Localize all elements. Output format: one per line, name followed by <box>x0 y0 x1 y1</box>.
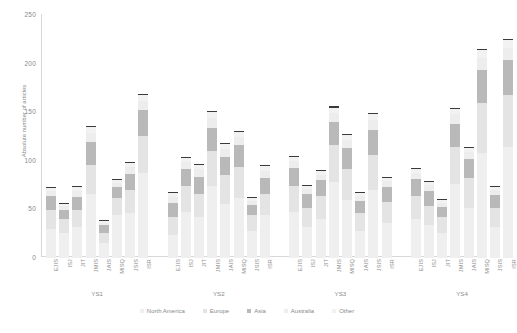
bar[interactable] <box>86 126 96 257</box>
bar-segment <box>207 151 217 186</box>
bar-segment <box>72 227 82 258</box>
bar-segment <box>437 207 447 218</box>
legend-label: Other <box>339 308 354 314</box>
bar-segment <box>181 162 191 169</box>
bar-segment <box>302 227 312 258</box>
bar-segment <box>490 227 500 258</box>
bar-segment <box>168 235 178 258</box>
x-tick-label: ISR <box>389 259 395 269</box>
bar[interactable] <box>450 108 460 257</box>
bar[interactable] <box>368 113 378 257</box>
bar[interactable] <box>112 179 122 257</box>
bar-segment <box>125 190 135 213</box>
x-tick-label: EJIS <box>297 259 303 271</box>
bar[interactable] <box>490 186 500 257</box>
bar[interactable] <box>194 164 204 257</box>
x-tick-label: ISJ <box>310 259 316 267</box>
bar-segment <box>316 219 326 258</box>
bar[interactable] <box>46 187 56 257</box>
bar[interactable] <box>382 177 392 257</box>
x-tick-label: MISQ <box>241 259 247 274</box>
bar[interactable] <box>289 156 299 257</box>
bar[interactable] <box>247 197 257 257</box>
legend-item[interactable]: Asia <box>247 308 266 314</box>
bar-segment <box>329 122 339 145</box>
bar[interactable] <box>355 192 365 257</box>
bar-segment <box>477 70 487 103</box>
bar-segment <box>477 50 487 58</box>
bar-segment <box>316 180 326 196</box>
bar[interactable] <box>234 131 244 257</box>
bar-segment <box>302 208 312 227</box>
bar[interactable] <box>220 143 230 257</box>
bar[interactable] <box>72 186 82 257</box>
bar-segment <box>342 148 352 168</box>
legend-item[interactable]: North America <box>140 308 185 314</box>
legend-swatch-icon <box>284 309 288 313</box>
legend-item[interactable]: Europe <box>203 308 229 314</box>
bar[interactable] <box>181 157 191 257</box>
bar[interactable] <box>477 49 487 257</box>
bar-segment <box>450 184 460 258</box>
bar[interactable] <box>168 192 178 257</box>
group-label: YS4 <box>456 290 468 297</box>
x-tick-label: JMIS <box>215 259 221 272</box>
bar-segment <box>46 229 56 258</box>
legend-item[interactable]: Other <box>332 308 354 314</box>
bar[interactable] <box>424 181 434 257</box>
y-tick-label: 250 <box>25 11 36 18</box>
x-tick-label: JMIS <box>93 259 99 272</box>
bar[interactable] <box>207 111 217 257</box>
group-label: YS2 <box>213 290 225 297</box>
bar[interactable] <box>464 147 474 257</box>
legend-label: Asia <box>254 308 266 314</box>
x-tick-label: MISQ <box>119 259 125 274</box>
bar[interactable] <box>125 162 135 257</box>
x-tick-label: JIT <box>323 259 329 267</box>
bar[interactable] <box>503 39 513 257</box>
bar-segment <box>72 210 82 227</box>
bar-segment <box>424 225 434 258</box>
bar-segment <box>503 147 513 258</box>
bar-segment <box>234 145 244 166</box>
bar-segment <box>437 233 447 258</box>
bar-segment <box>234 137 244 146</box>
legend-item[interactable]: Australia <box>284 308 314 314</box>
bar[interactable] <box>138 94 148 257</box>
x-tick-label: ISJ <box>188 259 194 267</box>
x-tick-label: JIT <box>80 259 86 267</box>
bar-segment <box>411 173 421 180</box>
bar-segment <box>289 161 299 168</box>
bar[interactable] <box>411 168 421 257</box>
x-tick-label: JAIS <box>363 259 369 271</box>
bar-segment <box>46 196 56 210</box>
bar-segment <box>46 210 56 229</box>
bar-segment <box>86 133 96 142</box>
bar[interactable] <box>437 199 447 257</box>
bar-segment <box>138 101 148 111</box>
bar-segment <box>99 233 109 243</box>
bar-segment <box>207 118 217 128</box>
bar-segment <box>125 167 135 174</box>
bar[interactable] <box>99 220 109 257</box>
bar[interactable] <box>302 185 312 257</box>
bar[interactable] <box>59 203 69 257</box>
bar-segment <box>289 186 299 211</box>
bar[interactable] <box>342 134 352 257</box>
bar-segment <box>99 225 109 233</box>
bar-segment <box>464 152 474 159</box>
bar-segment <box>355 213 365 230</box>
bar-segment <box>302 194 312 208</box>
bar-segment <box>59 210 69 220</box>
bar-segment <box>260 178 270 195</box>
y-axis-ticks: 050100150200250 <box>0 0 36 333</box>
bar[interactable] <box>260 165 270 257</box>
bar-segment <box>490 208 500 227</box>
bar-segment <box>181 169 191 186</box>
bar[interactable] <box>329 106 339 257</box>
x-tick-label: JSIS <box>133 259 139 271</box>
bar-segment <box>260 194 270 215</box>
x-tick-label: JIT <box>201 259 207 267</box>
bar[interactable] <box>316 170 326 257</box>
bar-segment <box>368 155 378 190</box>
